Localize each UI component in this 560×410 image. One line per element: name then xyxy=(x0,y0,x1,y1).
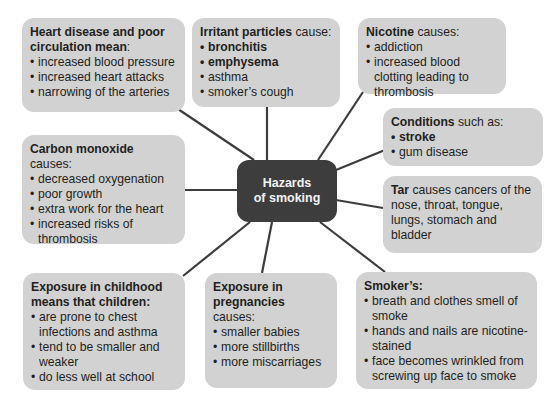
tar-box: Tar causes cancers of the nose, throat, … xyxy=(383,176,542,253)
irritant-particles-box: Irritant particles cause: bronchitis emp… xyxy=(192,18,340,107)
heart-title: Heart disease and poor circulation mean xyxy=(30,25,165,54)
carbon-monoxide-list: decreased oxygenation poor growth extra … xyxy=(30,172,177,247)
heart-disease-box: Heart disease and poor circulation mean:… xyxy=(22,18,185,112)
list-item: tend to be smaller and weaker xyxy=(31,340,177,370)
nicotine-box: Nicotine causes: addiction increased blo… xyxy=(358,18,506,94)
list-item: increased heart attacks xyxy=(30,70,177,85)
conditions-title-rest: such as: xyxy=(455,115,504,129)
list-item: smoker’s cough xyxy=(200,85,332,100)
conditions-box: Conditions such as: stroke gum disease xyxy=(383,108,543,166)
childhood-title: Exposure in childhood means that childre… xyxy=(31,280,162,309)
list-item: are prone to chest infections and asthma xyxy=(31,310,177,340)
carbon-monoxide-box: Carbon monoxide causes: decreased oxygen… xyxy=(22,135,185,244)
list-item: bronchitis xyxy=(200,40,332,55)
list-item: more miscarriages xyxy=(213,355,329,370)
pregnancy-list: smaller babies more stillbirths more mis… xyxy=(213,325,329,370)
irritant-title-rest: cause: xyxy=(292,25,331,39)
childhood-exposure-box: Exposure in childhood means that childre… xyxy=(23,273,185,390)
list-item: addiction xyxy=(366,40,498,55)
irritant-list: bronchitis emphysema asthma smoker’s cou… xyxy=(200,40,332,100)
list-item: more stillbirths xyxy=(213,340,329,355)
conditions-list: stroke gum disease xyxy=(391,130,535,160)
carbon-monoxide-title-rest: causes: xyxy=(30,157,72,171)
list-item: hands and nails are nicotine-stained xyxy=(364,324,529,354)
list-item: decreased oxygenation xyxy=(30,172,177,187)
heart-title-rest: : xyxy=(127,40,130,54)
list-item: stroke xyxy=(391,130,535,145)
smokers-list: breath and clothes smell of smoke hands … xyxy=(364,294,529,384)
list-item: increased blood clotting leading to thro… xyxy=(366,55,498,100)
list-item: face becomes wrinkled from screwing up f… xyxy=(364,354,529,384)
list-item: poor growth xyxy=(30,187,177,202)
list-item: do less well at school xyxy=(31,370,177,385)
heart-list: increased blood pressure increased heart… xyxy=(30,55,177,100)
conditions-title: Conditions xyxy=(391,115,455,129)
list-item: breath and clothes smell of smoke xyxy=(364,294,529,324)
smokers-title: Smoker’s: xyxy=(364,279,423,293)
nicotine-title: Nicotine xyxy=(366,25,414,39)
carbon-monoxide-title: Carbon monoxide xyxy=(30,142,134,156)
pregnancy-exposure-box: Exposure in pregnancies causes: smaller … xyxy=(205,273,337,388)
list-item: extra work for the heart xyxy=(30,202,177,217)
smokers-box: Smoker’s: breath and clothes smell of sm… xyxy=(356,272,537,389)
list-item: narrowing of the arteries xyxy=(30,85,177,100)
center-title-line2: of smoking xyxy=(254,191,321,206)
childhood-list: are prone to chest infections and asthma… xyxy=(31,310,177,385)
list-item: smaller babies xyxy=(213,325,329,340)
pregnancy-title: Exposure in pregnancies xyxy=(213,280,285,309)
tar-description: causes cancers of the nose, throat, tong… xyxy=(391,183,531,242)
list-item: increased risks of thrombosis xyxy=(30,217,177,247)
tar-title: Tar xyxy=(391,183,409,197)
list-item: increased blood pressure xyxy=(30,55,177,70)
list-item: asthma xyxy=(200,70,332,85)
pregnancy-title-rest: causes: xyxy=(213,310,255,324)
center-title-line1: Hazards xyxy=(263,176,312,191)
list-item: emphysema xyxy=(200,55,332,70)
list-item: gum disease xyxy=(391,145,535,160)
nicotine-title-rest: causes: xyxy=(414,25,459,39)
central-topic-node: Hazards of smoking xyxy=(237,160,337,222)
irritant-title: Irritant particles xyxy=(200,25,292,39)
nicotine-list: addiction increased blood clotting leadi… xyxy=(366,40,498,100)
